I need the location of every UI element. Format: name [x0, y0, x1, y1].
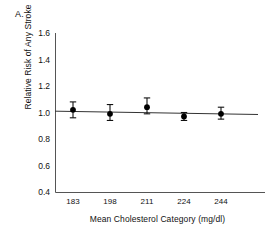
x-tick-label: 224	[177, 197, 191, 206]
y-tick-label: 1.6	[38, 28, 50, 38]
x-tick-label: 183	[66, 197, 80, 206]
y-tick-label: 0.6	[38, 161, 50, 171]
y-axis-tick-labels: 0.40.60.81.01.21.41.6	[38, 28, 50, 197]
x-tick-label: 244	[214, 197, 228, 206]
y-tick-label: 0.4	[38, 187, 50, 197]
data-point-marker	[181, 114, 187, 120]
data-point-marker	[70, 107, 76, 113]
y-tick-label: 0.8	[38, 134, 50, 144]
x-tick-label: 198	[103, 197, 117, 206]
x-axis-tick-labels: 183198211224244	[66, 197, 228, 206]
x-tick-label: 211	[141, 197, 154, 206]
trend-line	[55, 111, 258, 114]
data-point-group	[107, 105, 113, 121]
data-point-marker	[218, 111, 224, 117]
data-series	[70, 98, 224, 121]
figure-panel-a: A. Relative Risk of Any Stroke Mean Chol…	[0, 0, 274, 244]
y-tick-label: 1.2	[38, 81, 50, 91]
data-point-group	[144, 98, 150, 114]
y-tick-label: 1.0	[38, 108, 50, 118]
data-point-marker	[107, 111, 113, 117]
data-point-group	[218, 107, 224, 119]
y-tick-label: 1.4	[38, 55, 50, 65]
scatter-plot-canvas: 0.40.60.81.01.21.41.6 183198211224244	[0, 0, 274, 244]
data-point-group	[70, 102, 76, 118]
data-point-marker	[144, 104, 150, 110]
